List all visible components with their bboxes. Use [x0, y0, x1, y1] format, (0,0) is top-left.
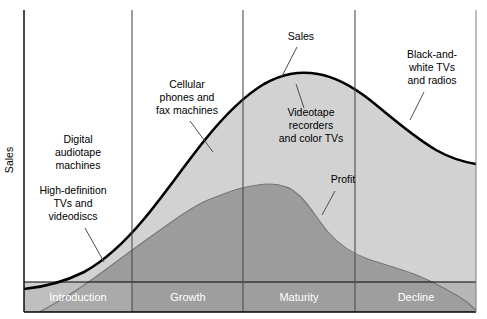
cellular-phones-line2: phones and	[160, 91, 215, 103]
digital-audiotape-line3: machines	[56, 159, 101, 171]
high-definition-line1: High-definition	[39, 184, 106, 196]
digital-audiotape-line2: audiotape	[55, 146, 101, 158]
high-definition-line2: TVs and	[53, 197, 92, 209]
stage-label-introduction: Introduction	[49, 291, 106, 303]
stage-label-decline: Decline	[398, 291, 435, 303]
high-definition-line3: videodiscs	[48, 210, 97, 222]
videotape-line2: recorders	[289, 119, 333, 131]
stage-label-maturity: Maturity	[279, 291, 319, 303]
profit-annotation-label: Profit	[331, 173, 356, 185]
sales-annotation-label: Sales	[288, 30, 314, 42]
y-axis-label: Sales	[3, 147, 15, 173]
videotape-line1: Videotape	[287, 106, 334, 118]
black-and-white-line1: Black-and-	[407, 48, 458, 60]
black-and-white-line3: and radios	[407, 74, 456, 86]
chart-canvas: Sales Digital audiotape machines High-de…	[0, 0, 487, 319]
black-and-white-line2: white TVs	[408, 61, 455, 73]
stage-label-growth: Growth	[170, 291, 205, 303]
cellular-phones-line1: Cellular	[169, 78, 205, 90]
videotape-line3: and color TVs	[279, 132, 344, 144]
cellular-phones-line3: fax machines	[156, 104, 218, 116]
digital-audiotape-line1: Digital	[63, 133, 92, 145]
product-life-cycle-chart: Sales Digital audiotape machines High-de…	[0, 0, 487, 319]
